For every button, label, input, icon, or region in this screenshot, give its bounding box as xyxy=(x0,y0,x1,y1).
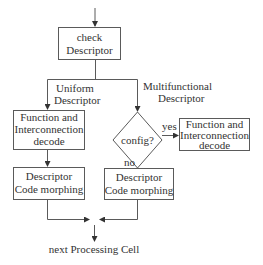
next-processing-cell-label: next Processing Cell xyxy=(49,243,139,255)
check-line-2: Descriptor xyxy=(66,44,113,56)
right-decode-line-3: decode xyxy=(199,139,230,151)
right-morph-line-1: Descriptor xyxy=(116,171,163,183)
left-decode-line-1: Function and xyxy=(20,111,78,123)
right-morph-node: Descriptor Code morphing xyxy=(105,169,174,200)
right-decode-node: Function and Interconnection decode xyxy=(180,118,250,151)
uniform-label-line-2: Descriptor xyxy=(54,94,101,106)
left-decode-line-3: decode xyxy=(33,135,64,147)
flowchart: check Descriptor Uniform Descriptor Mult… xyxy=(0,0,263,265)
left-decode-line-2: Interconnection xyxy=(14,123,84,135)
left-decode-node: Function and Interconnection decode xyxy=(14,111,85,150)
yes-label: yes xyxy=(162,120,177,132)
left-morph-node: Descriptor Code morphing xyxy=(14,168,85,200)
check-line-1: check xyxy=(77,31,103,43)
uniform-label-line-1: Uniform xyxy=(56,82,94,94)
right-morph-line-2: Code morphing xyxy=(105,184,174,196)
left-merge-arrow xyxy=(48,200,90,220)
left-morph-line-1: Descriptor xyxy=(26,170,73,182)
config-label: config? xyxy=(121,134,154,146)
multifunctional-label-line-2: Descriptor xyxy=(158,92,205,104)
check-descriptor-node: check Descriptor xyxy=(59,28,121,60)
config-decision-node: config? xyxy=(113,112,162,168)
multifunctional-label-line-1: Multifunctional xyxy=(143,80,212,92)
right-merge-arrow xyxy=(100,200,138,220)
left-morph-line-2: Code morphing xyxy=(15,183,84,195)
no-label: no xyxy=(124,156,136,168)
